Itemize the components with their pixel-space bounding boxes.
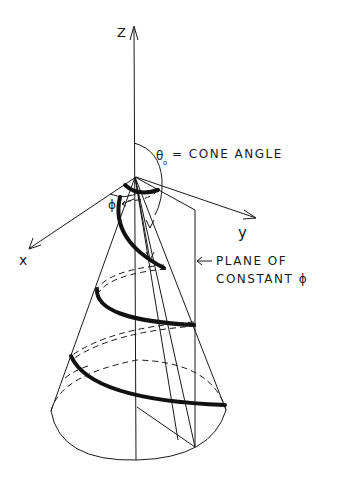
cone-angle-label: = CONE ANGLE xyxy=(172,147,283,161)
cone-base-front xyxy=(51,410,226,460)
cone-right-edge xyxy=(135,177,226,410)
cone-angle-subscript: o xyxy=(163,159,169,167)
phi-arrow xyxy=(122,199,134,206)
helix-turn-3 xyxy=(71,356,225,405)
generator-arrow-1 xyxy=(146,220,154,228)
plane-label-line1: PLANE OF xyxy=(216,254,287,268)
cone-generator xyxy=(135,177,195,447)
cone-left-edge xyxy=(51,177,135,411)
helix-turn-2 xyxy=(97,289,194,325)
plane-label-line2: CONSTANT ϕ xyxy=(216,272,308,286)
helix-back-1a xyxy=(97,265,164,289)
y-axis-label: y xyxy=(238,224,248,242)
plane-pointer-arrow xyxy=(197,257,212,265)
helix-back-2b xyxy=(73,326,196,359)
helix-back-2a xyxy=(71,322,194,356)
x-axis-label: x xyxy=(19,252,29,268)
phi-label: ϕ xyxy=(108,198,117,212)
conical-helix-diagram: Z y x θ o = CONE ANGLE ϕ PLANE OF CONSTA… xyxy=(0,0,343,487)
z-axis-label: Z xyxy=(117,25,127,40)
y-axis xyxy=(136,177,256,218)
